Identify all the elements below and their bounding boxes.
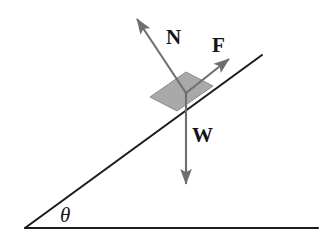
incline-angle-label: θ xyxy=(60,203,70,227)
weight-force-label: W xyxy=(192,123,213,147)
physics-diagram-canvas: N F W θ xyxy=(0,0,334,242)
normal-force-label: N xyxy=(166,25,181,49)
inclined-plane-diagram: N F W θ xyxy=(0,0,334,242)
applied-force-label: F xyxy=(212,33,225,57)
